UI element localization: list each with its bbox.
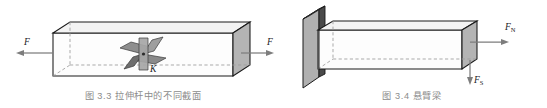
label-section-point-k: K (149, 64, 157, 74)
figures-svg: K F F 图 3.3 拉伸杆中的不同截面 (0, 0, 547, 108)
caption-figure-3-4: 图 3.4 悬臂梁 (382, 90, 441, 101)
figure-pair-canvas: K F F 图 3.3 拉伸杆中的不同截面 (0, 0, 547, 108)
label-force-axial-subscript: N (511, 26, 516, 33)
label-force-shear-subscript: S (480, 79, 484, 86)
bar-top-face (53, 22, 250, 33)
label-force-left: F (23, 37, 30, 47)
section-point-k-dot (142, 52, 145, 55)
wall-front-face (303, 9, 319, 88)
caption-figure-3-3: 图 3.3 拉伸杆中的不同截面 (85, 90, 202, 101)
beam-top-face (318, 21, 477, 30)
label-force-right: F (266, 37, 273, 47)
beam-front-face (318, 30, 462, 69)
